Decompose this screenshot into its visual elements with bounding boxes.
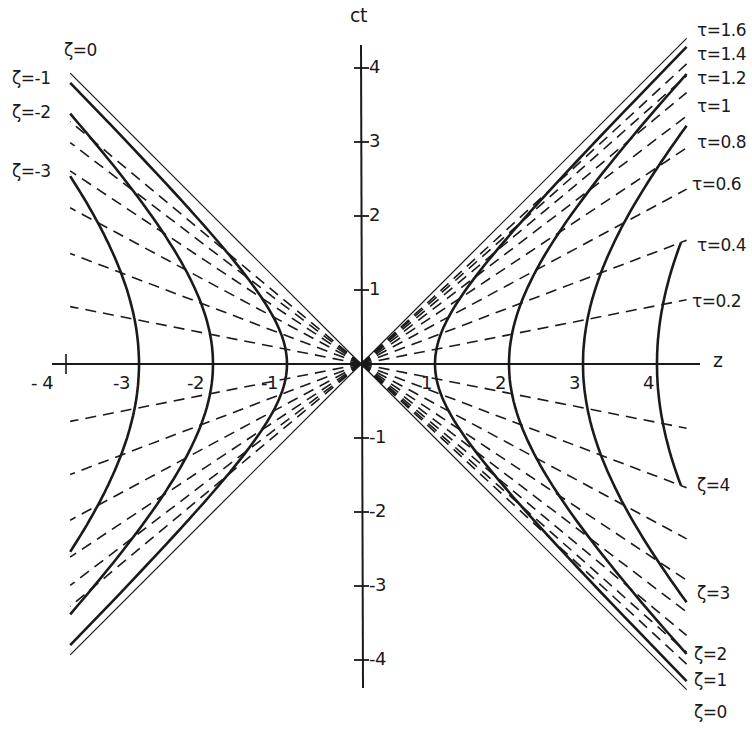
- z-tick-label: -1: [261, 374, 278, 392]
- tau-label: τ=1.2: [697, 70, 746, 87]
- tau-label: τ=0.8: [697, 134, 746, 151]
- tau-ray: [70, 254, 361, 364]
- tau-ray: [361, 189, 687, 364]
- z-tick-label: - 4: [31, 374, 53, 392]
- z-tick-label: 2: [495, 374, 506, 392]
- tau-ray: [70, 364, 361, 606]
- ct-axis-label: ct: [350, 6, 367, 25]
- tau-ray: [361, 116, 687, 364]
- tau-label: τ=0.4: [697, 237, 746, 254]
- zeta-label: ζ=-3: [12, 163, 50, 180]
- rindler-coordinates-diagram: [0, 0, 752, 738]
- zeta-label: ζ=0: [694, 704, 727, 721]
- light-cone-line: [70, 364, 361, 655]
- ct-tick-label: 3: [369, 132, 380, 150]
- tau-label: τ=1: [697, 98, 731, 115]
- ct-tick-label: 1: [369, 280, 380, 298]
- tau-ray: [361, 364, 687, 539]
- ct-tick-label: 2: [369, 206, 380, 224]
- tau-ray: [70, 122, 361, 364]
- z-tick-label: -3: [113, 374, 130, 392]
- tau-ray: [361, 364, 687, 635]
- z-tick-label: -2: [187, 374, 204, 392]
- zeta-label: ζ=0: [64, 42, 97, 59]
- tau-ray: [361, 64, 687, 364]
- tau-ray: [361, 364, 687, 488]
- ct-tick-label: -4: [369, 650, 386, 668]
- ct-tick-label: 4: [369, 58, 380, 76]
- z-axis-label: z: [713, 351, 722, 370]
- tau-label: τ=0.2: [692, 293, 741, 310]
- tau-label: τ=0.6: [692, 176, 741, 193]
- zeta-label: ζ=1: [694, 672, 727, 689]
- tau-ray: [361, 364, 687, 612]
- z-tick-label: 1: [421, 374, 432, 392]
- zeta-label: ζ=-1: [12, 70, 50, 87]
- light-cone-line: [70, 73, 361, 364]
- z-tick-label: 3: [569, 374, 580, 392]
- zeta-label: ζ=-2: [12, 104, 50, 121]
- tau-ray: [70, 208, 361, 364]
- tau-label: τ=1.6: [697, 22, 746, 39]
- ct-tick-label: -2: [369, 502, 386, 520]
- ct-tick-label: -3: [369, 576, 386, 594]
- tau-label: τ=1.4: [697, 46, 746, 63]
- tau-ray: [361, 93, 687, 364]
- tau-ray: [70, 307, 361, 364]
- ct-tick-label: -1: [369, 428, 386, 446]
- tau-ray: [361, 364, 687, 664]
- z-tick-label: 4: [643, 374, 654, 392]
- zeta-label: ζ=3: [697, 585, 730, 602]
- tau-ray: [361, 240, 687, 364]
- zeta-label: ζ=4: [697, 477, 730, 494]
- zeta-label: ζ=2: [694, 646, 727, 663]
